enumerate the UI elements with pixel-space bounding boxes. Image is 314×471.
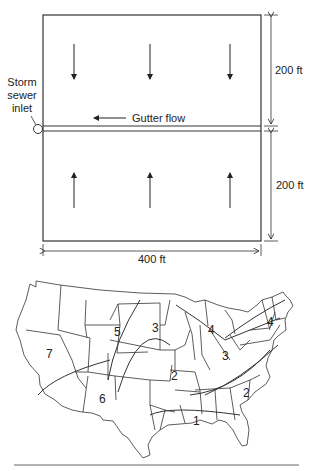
inlet-label-line3: inlet xyxy=(0,102,44,115)
state-lines xyxy=(26,285,285,430)
inlet-label-line2: sewer xyxy=(0,89,44,102)
region-label-6: 6 xyxy=(99,393,106,405)
region-label-1: 1 xyxy=(193,415,200,427)
drainage-plot-diagram xyxy=(0,0,314,271)
dimension-top-label: 200 ft xyxy=(275,64,303,76)
us-outline xyxy=(16,281,293,458)
inlet-label-line1: Storm xyxy=(0,76,44,89)
region-label-3-central: 3 xyxy=(152,322,159,334)
dimension-width-label: 400 ft xyxy=(138,253,166,265)
region-label-3-ohio: 3 xyxy=(222,350,229,362)
inlet-label: Storm sewer inlet xyxy=(0,76,44,115)
region-label-5: 5 xyxy=(114,326,121,338)
region-label-2-central: 2 xyxy=(171,370,178,382)
dimension-bottom-label: 200 ft xyxy=(276,179,304,191)
gutter-flow-label: Gutter flow xyxy=(132,112,185,124)
region-label-4-lakes: 4 xyxy=(208,324,215,336)
storm-inlet-icon xyxy=(34,125,43,134)
region-label-4-northeast: 4 xyxy=(267,316,274,328)
inlet-leader-line xyxy=(31,116,36,125)
plot-boundary xyxy=(43,15,261,241)
region-label-2-east: 2 xyxy=(243,387,250,399)
region-label-7: 7 xyxy=(46,348,53,360)
